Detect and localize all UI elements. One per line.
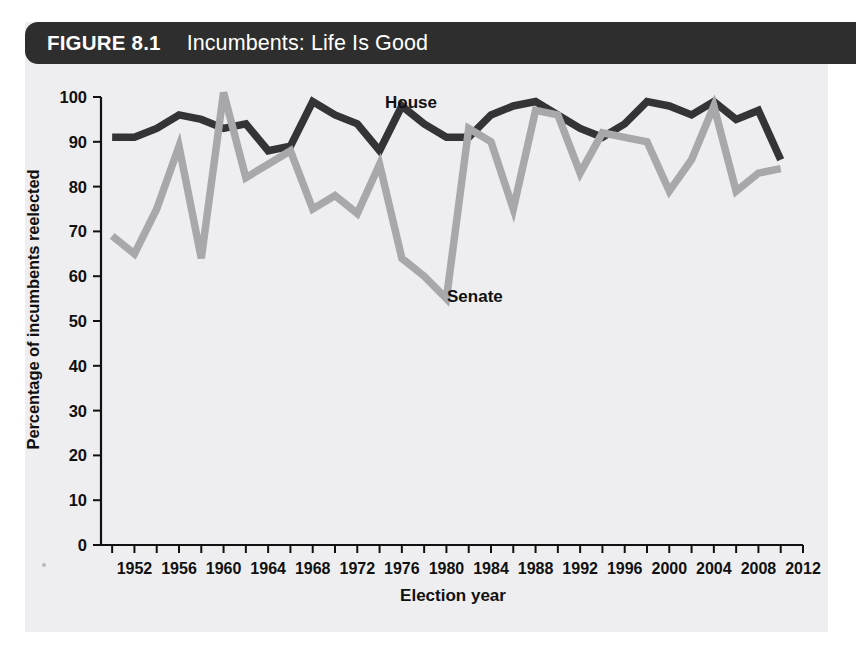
series-annotation-house: House [385,93,437,112]
x-tick-label: 1980 [429,560,465,577]
x-tick-label: 1972 [339,560,375,577]
x-tick-label: 1956 [161,560,197,577]
figure-container: FIGURE 8.1 Incumbents: Life Is Good Perc… [0,0,856,659]
y-tick-label: 0 [78,536,87,554]
x-tick-label: 2012 [785,560,821,577]
y-tick-label: 10 [69,491,87,509]
y-tick-label: 50 [69,312,87,330]
y-tick-label: 80 [69,178,87,196]
y-tick-label: 20 [69,446,87,464]
series-annotation-senate: Senate [447,287,503,306]
x-tick-label: 1960 [206,560,242,577]
x-tick-label: 1976 [384,560,420,577]
x-tick-label: 1992 [562,560,598,577]
x-tick-label: 1988 [518,560,554,577]
x-tick-label: 2008 [741,560,777,577]
x-tick-label: 1996 [607,560,643,577]
x-tick-label: 1964 [250,560,286,577]
x-axis-ticks: 1952195619601964196819721976198019841988… [112,545,821,577]
y-tick-label: 90 [69,133,87,151]
y-tick-label: 30 [69,402,87,420]
axis-lines [101,97,803,545]
x-tick-label: 1952 [117,560,153,577]
y-tick-label: 70 [69,222,87,240]
x-tick-label: 2000 [651,560,687,577]
y-tick-label: 100 [59,88,87,106]
x-tick-label: 1968 [295,560,331,577]
y-axis-ticks: 0102030405060708090100 [59,88,101,554]
x-tick-label: 2004 [696,560,732,577]
line-chart-plot: 0102030405060708090100 19521956196019641… [0,0,856,659]
y-tick-label: 40 [69,357,87,375]
data-series-layer [112,93,781,299]
y-tick-label: 60 [69,267,87,285]
x-tick-label: 1984 [473,560,509,577]
